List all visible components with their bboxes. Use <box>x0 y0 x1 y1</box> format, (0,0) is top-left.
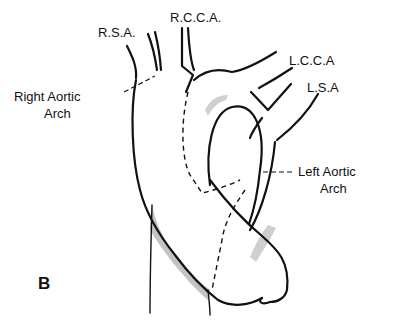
label-right-aortic-arch-1: Right Aortic <box>14 89 81 104</box>
label-lsa: L.S.A <box>307 80 339 95</box>
label-lcca: L.C.C.A <box>289 53 335 68</box>
panel-label: B <box>38 274 50 293</box>
left-common-carotid-artery <box>194 52 276 80</box>
left-subclavian-artery <box>277 94 318 140</box>
hidden-outline-descending <box>212 190 245 290</box>
right-common-carotid-artery-right <box>188 28 194 70</box>
right-arch-leader <box>124 76 155 92</box>
label-rcca: R.C.C.A. <box>170 10 221 25</box>
left-common-carotid-artery-upper <box>259 68 292 88</box>
label-left-aortic-arch-1: Left Aortic <box>298 164 356 179</box>
descending-aorta-left <box>150 205 152 313</box>
label-right-aortic-arch-2: Arch <box>44 106 71 121</box>
label-left-aortic-arch-2: Arch <box>320 181 347 196</box>
left-common-carotid-artery-lower <box>251 84 291 110</box>
double-aortic-arch-diagram: R.S.A. R.C.C.A. L.C.C.A L.S.A Right Aort… <box>0 0 396 325</box>
label-rsa: R.S.A. <box>98 25 136 40</box>
right-subclavian-artery <box>127 46 136 78</box>
